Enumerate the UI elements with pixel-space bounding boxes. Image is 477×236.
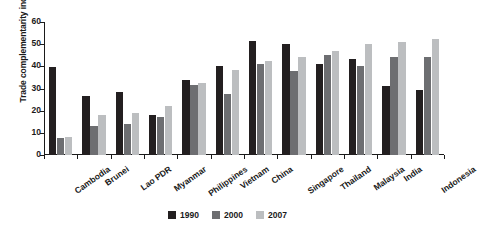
bar-group <box>49 22 72 155</box>
bar <box>224 94 231 155</box>
bar <box>382 86 389 155</box>
bar <box>57 138 64 155</box>
legend-item: 1990 <box>168 210 199 220</box>
bar <box>65 137 72 155</box>
bar <box>98 115 105 155</box>
bar <box>390 57 397 155</box>
bar <box>282 44 289 155</box>
plot-area: 0102030405060 <box>44 22 444 155</box>
y-tick-label: 40 <box>32 60 41 70</box>
legend-swatch <box>256 211 264 219</box>
legend-swatch <box>168 211 176 219</box>
x-tick-label: Malaysia <box>372 164 407 193</box>
bar <box>190 85 197 155</box>
bar <box>198 83 205 155</box>
legend-item: 2000 <box>212 210 243 220</box>
x-tick-mark <box>244 155 245 159</box>
x-tick-mark <box>277 155 278 159</box>
bar <box>116 92 123 155</box>
bar <box>149 115 156 155</box>
y-tick-label: 50 <box>32 38 41 48</box>
x-tick-label: Singapore <box>306 164 346 196</box>
y-tick-label: 60 <box>32 16 41 26</box>
y-tick-label: 20 <box>32 105 41 115</box>
bar-group <box>216 22 239 155</box>
bar-group <box>149 22 172 155</box>
y-axis-line <box>44 22 45 155</box>
x-tick-label: Myanmar <box>172 164 208 194</box>
x-tick-mark <box>377 155 378 159</box>
bar <box>349 59 356 155</box>
x-tick-mark <box>111 155 112 159</box>
bar <box>182 80 189 155</box>
bar <box>357 66 364 155</box>
y-axis-title: Trade complementarity index <box>18 0 28 120</box>
x-tick-label: Indonesia <box>439 164 477 195</box>
bar <box>232 70 239 155</box>
y-tick-label: 30 <box>32 83 41 93</box>
legend-item: 2007 <box>256 210 287 220</box>
bar <box>298 57 305 155</box>
bar <box>49 67 56 155</box>
bar-group <box>382 22 405 155</box>
chart-legend: 199020002007 <box>0 210 455 220</box>
bar <box>257 64 264 155</box>
legend-label: 1990 <box>180 210 199 220</box>
legend-label: 2007 <box>268 210 287 220</box>
bar <box>432 39 439 155</box>
bar <box>157 117 164 155</box>
bar <box>90 126 97 155</box>
bar-group <box>416 22 439 155</box>
bar-group <box>116 22 139 155</box>
bar-group <box>282 22 305 155</box>
bar <box>416 90 423 155</box>
bar-group <box>249 22 272 155</box>
x-tick-mark <box>44 155 45 159</box>
x-tick-mark <box>177 155 178 159</box>
legend-swatch <box>212 211 220 219</box>
bar <box>82 96 89 155</box>
bar <box>290 71 297 155</box>
bar <box>132 113 139 155</box>
bar-group <box>182 22 205 155</box>
bar <box>365 44 372 155</box>
y-tick-label: 0 <box>36 149 41 159</box>
bar <box>216 66 223 155</box>
x-tick-mark <box>311 155 312 159</box>
bar <box>424 57 431 155</box>
bar <box>249 41 256 155</box>
bar-group <box>349 22 372 155</box>
bar <box>332 51 339 155</box>
x-tick-mark <box>77 155 78 159</box>
bar-group <box>82 22 105 155</box>
x-tick-mark <box>444 155 445 159</box>
x-tick-label: India <box>402 164 424 184</box>
bar <box>324 55 331 155</box>
bar <box>316 64 323 155</box>
bar <box>265 61 272 155</box>
x-tick-label: Lao PDR <box>138 164 173 193</box>
x-tick-mark <box>211 155 212 159</box>
x-tick-mark <box>344 155 345 159</box>
x-tick-label: China <box>269 164 294 186</box>
bar-group <box>316 22 339 155</box>
bar <box>398 42 405 155</box>
legend-label: 2000 <box>224 210 243 220</box>
x-tick-mark <box>411 155 412 159</box>
x-tick-mark <box>144 155 145 159</box>
bar <box>124 124 131 155</box>
bar <box>165 106 172 155</box>
y-tick-label: 10 <box>32 127 41 137</box>
